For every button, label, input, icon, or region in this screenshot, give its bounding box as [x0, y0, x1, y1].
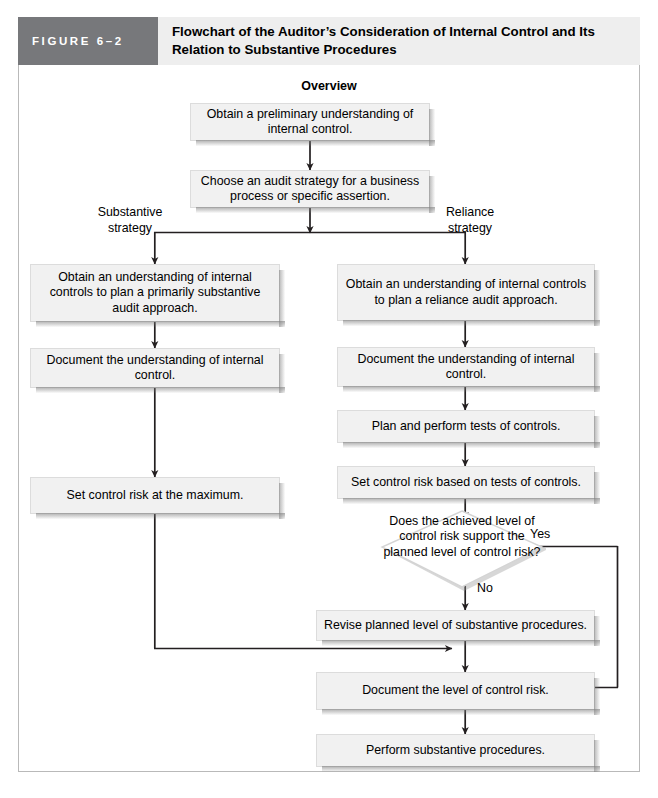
node-reliance-obtain-understanding: Obtain an understanding of internal cont… — [337, 264, 595, 321]
figure-number-cell: FIGURE 6–2 — [18, 17, 158, 65]
node-revise-planned-level: Revise planned level of substantive proc… — [316, 610, 595, 641]
node-choose-audit-strategy: Choose an audit strategy for a business … — [190, 170, 430, 208]
edge-label-reliance-strategy: Reliance strategy — [420, 205, 520, 236]
decision-node-control-risk-support: Does the achieved level of control risk … — [378, 509, 546, 593]
node-document-level-of-control-risk: Document the level of control risk. — [316, 672, 595, 710]
node-reliance-document-understanding: Document the understanding of internal c… — [337, 347, 595, 387]
node-set-control-risk-based-on-tests: Set control risk based on tests of contr… — [337, 466, 595, 499]
edge-label-substantive-strategy: Substantive strategy — [75, 205, 185, 236]
node-substantive-obtain-understanding: Obtain an understanding of internal cont… — [30, 264, 280, 322]
figure-header: FIGURE 6–2 Flowchart of the Auditor’s Co… — [18, 17, 640, 65]
edge-label-no: No — [477, 581, 517, 597]
node-set-control-risk-maximum: Set control risk at the maximum. — [30, 477, 280, 514]
node-plan-perform-tests-of-controls: Plan and perform tests of controls. — [337, 410, 595, 443]
node-perform-substantive-procedures: Perform substantive procedures. — [316, 734, 595, 767]
figure-title: Flowchart of the Auditor’s Consideration… — [172, 23, 630, 59]
node-obtain-preliminary-understanding: Obtain a preliminary understanding of in… — [190, 103, 430, 141]
figure-number-label: FIGURE 6–2 — [32, 35, 124, 47]
decision-label: Does the achieved level of control risk … — [378, 514, 546, 560]
figure-root: FIGURE 6–2 Flowchart of the Auditor’s Co… — [0, 0, 658, 798]
overview-heading: Overview — [0, 79, 658, 93]
edge-label-yes: Yes — [530, 527, 570, 543]
node-substantive-document-understanding: Document the understanding of internal c… — [30, 348, 280, 388]
figure-title-cell: Flowchart of the Auditor’s Consideration… — [158, 17, 640, 65]
